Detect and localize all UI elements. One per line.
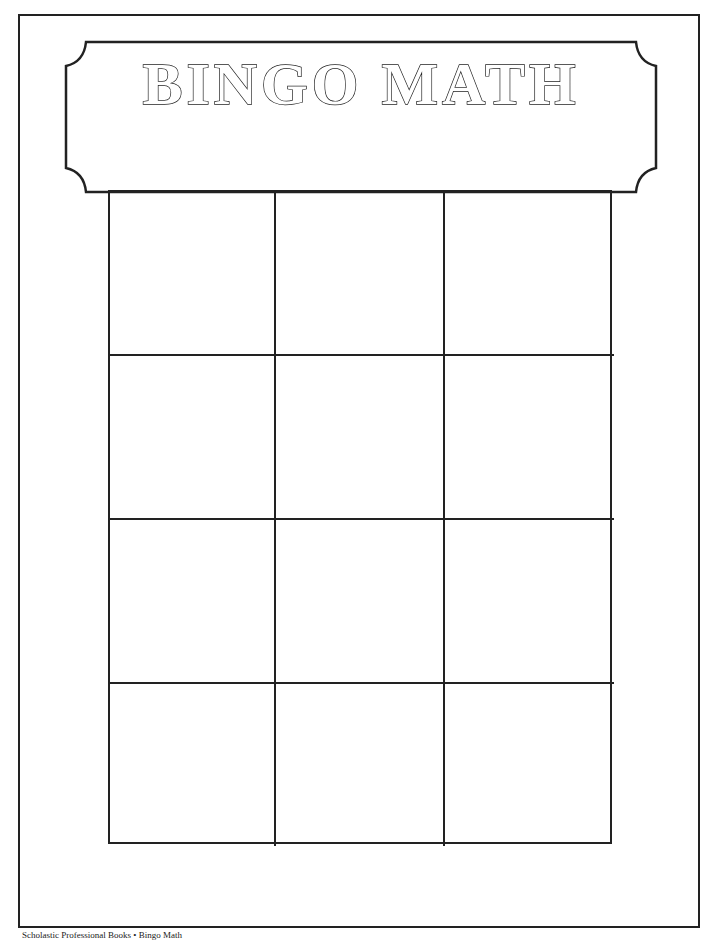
banner-title: BINGO MATH <box>142 51 579 117</box>
bingo-cell[interactable] <box>445 684 614 846</box>
banner-frame-shape: BINGO MATH <box>64 40 658 194</box>
bingo-cell[interactable] <box>276 192 445 356</box>
footer-credit: Scholastic Professional Books • Bingo Ma… <box>22 930 182 940</box>
bingo-cell[interactable] <box>110 192 276 356</box>
bingo-cell[interactable] <box>276 520 445 684</box>
bingo-cell[interactable] <box>445 192 614 356</box>
bingo-cell[interactable] <box>110 684 276 846</box>
bingo-cell[interactable] <box>276 356 445 520</box>
bingo-cell[interactable] <box>110 520 276 684</box>
bingo-cell[interactable] <box>445 356 614 520</box>
bingo-cell[interactable] <box>445 520 614 684</box>
bingo-cell[interactable] <box>110 356 276 520</box>
bingo-cell[interactable] <box>276 684 445 846</box>
title-banner: BINGO MATH <box>64 40 658 194</box>
bingo-grid <box>108 190 612 844</box>
